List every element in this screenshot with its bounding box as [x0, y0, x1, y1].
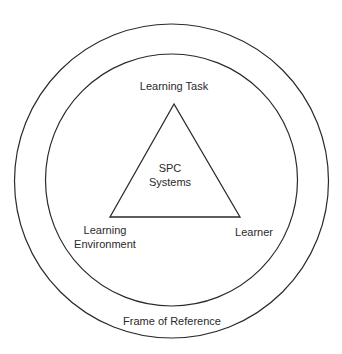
vertex-label-learning-task: Learning Task	[127, 80, 221, 93]
center-label-systems: Systems	[140, 176, 200, 189]
center-label-spc: SPC	[140, 162, 200, 175]
outer-ring-label-frame-of-reference: Frame of Reference	[116, 315, 228, 328]
spc-systems-triangle	[110, 104, 240, 217]
vertex-label-environment: Environment	[65, 238, 145, 251]
vertex-label-learner: Learner	[229, 226, 279, 239]
vertex-label-learning: Learning	[70, 224, 140, 237]
